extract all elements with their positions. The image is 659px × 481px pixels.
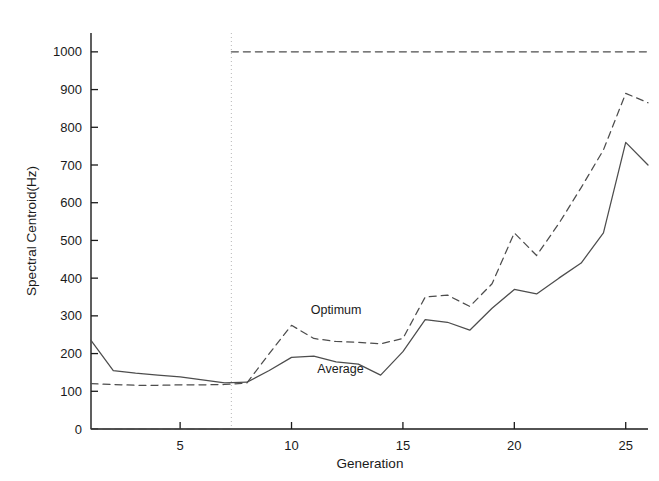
y-tick-label-300: 300 bbox=[60, 308, 82, 323]
y-tick-label-0: 0 bbox=[75, 422, 82, 437]
x-tick-label-20: 20 bbox=[507, 438, 521, 453]
x-tick-label-15: 15 bbox=[396, 438, 410, 453]
chart-figure: 01002003004005006007008009001000 Spectra… bbox=[0, 0, 659, 481]
annotation-average: Average bbox=[317, 362, 363, 376]
y-tick-label-200: 200 bbox=[60, 346, 82, 361]
x-tick-label-5: 5 bbox=[177, 438, 184, 453]
y-tick-label-400: 400 bbox=[60, 271, 82, 286]
x-axis-title: Generation bbox=[337, 456, 404, 471]
y-tick-label-1000: 1000 bbox=[53, 44, 82, 59]
annotation-optimum: Optimum bbox=[311, 303, 362, 317]
chart-background bbox=[0, 0, 659, 481]
y-tick-label-100: 100 bbox=[60, 384, 82, 399]
y-tick-label-800: 800 bbox=[60, 120, 82, 135]
y-tick-label-500: 500 bbox=[60, 233, 82, 248]
y-axis-title: Spectral Centroid(Hz) bbox=[24, 166, 39, 296]
spectral-centroid-line-chart: 01002003004005006007008009001000 Spectra… bbox=[0, 0, 659, 481]
y-tick-label-700: 700 bbox=[60, 158, 82, 173]
y-tick-label-900: 900 bbox=[60, 82, 82, 97]
y-tick-label-600: 600 bbox=[60, 195, 82, 210]
x-tick-label-25: 25 bbox=[618, 438, 632, 453]
x-tick-label-10: 10 bbox=[284, 438, 298, 453]
